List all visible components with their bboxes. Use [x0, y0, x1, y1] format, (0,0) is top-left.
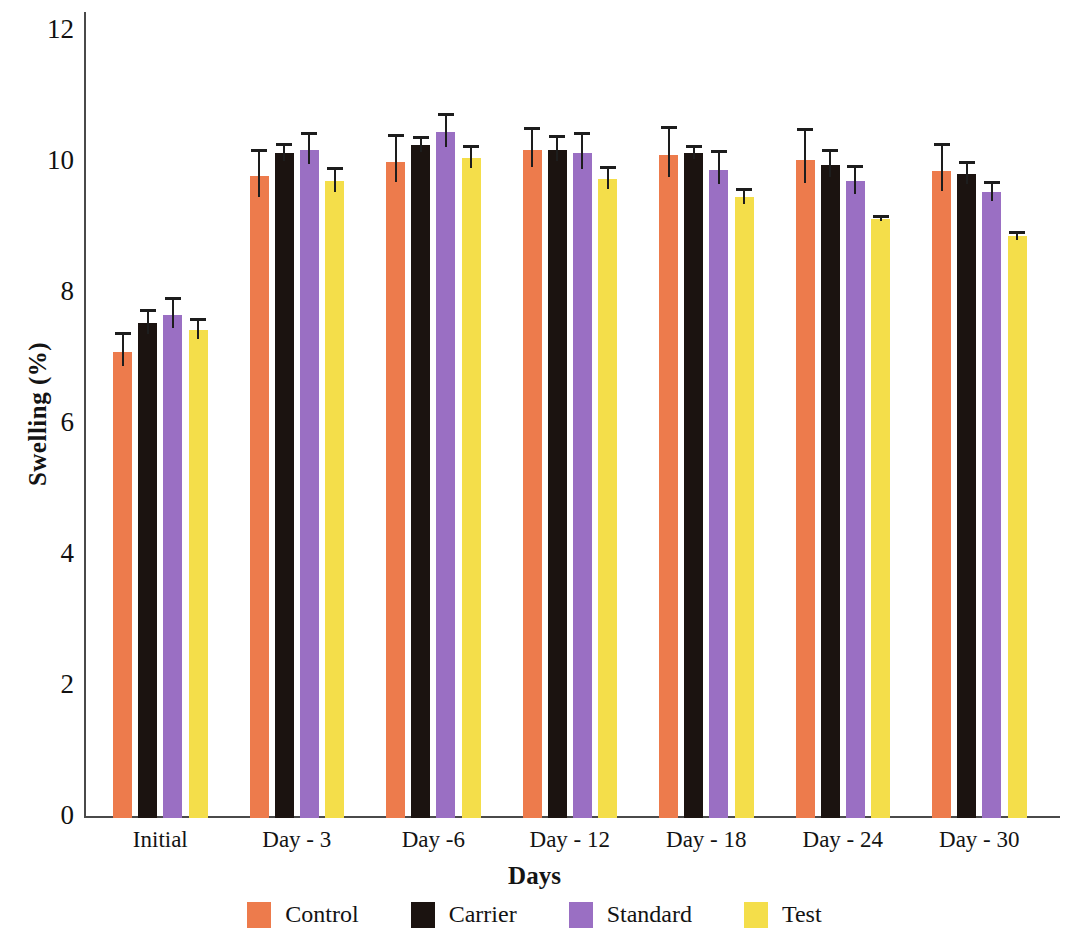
legend-label: Carrier [449, 901, 517, 928]
y-tick-label: 10 [14, 145, 74, 176]
y-tick-label: 2 [14, 669, 74, 700]
legend-label: Standard [607, 901, 692, 928]
legend-item-carrier[interactable]: Carrier [411, 901, 517, 928]
x-tick-label: Day - 3 [227, 827, 367, 853]
legend-swatch-icon [744, 902, 768, 928]
x-tick-label: Initial [90, 827, 230, 853]
x-tick-label: Day - 12 [500, 827, 640, 853]
legend-swatch-icon [411, 902, 435, 928]
chart-legend: ControlCarrierStandardTest [0, 901, 1069, 928]
legend-swatch-icon [569, 902, 593, 928]
legend-swatch-icon [247, 902, 271, 928]
y-tick-label: 8 [14, 276, 74, 307]
legend-label: Test [782, 901, 822, 928]
y-tick-label: 4 [14, 538, 74, 569]
plot-area [84, 12, 1060, 818]
legend-label: Control [285, 901, 358, 928]
swelling-bar-chart: Swelling (%) 024681012 InitialDay - 3Day… [0, 0, 1069, 949]
x-tick-label: Day - 30 [909, 827, 1049, 853]
legend-item-test[interactable]: Test [744, 901, 822, 928]
x-tick-label: Day - 18 [636, 827, 776, 853]
legend-item-standard[interactable]: Standard [569, 901, 692, 928]
legend-item-control[interactable]: Control [247, 901, 358, 928]
y-tick-label: 6 [14, 407, 74, 438]
y-tick-label: 0 [14, 800, 74, 831]
x-tick-label: Day -6 [363, 827, 503, 853]
y-tick-label: 12 [14, 14, 74, 45]
x-axis-title: Days [0, 862, 1069, 890]
x-tick-label: Day - 24 [773, 827, 913, 853]
